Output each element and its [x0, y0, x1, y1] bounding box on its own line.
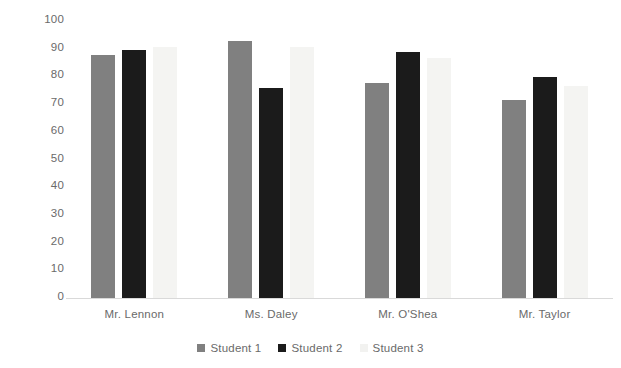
bar-group	[66, 22, 203, 299]
bar-student-3[interactable]	[290, 47, 314, 299]
bar-group	[340, 22, 477, 299]
bar-student-2[interactable]	[533, 77, 557, 299]
bar-student-1[interactable]	[365, 83, 389, 299]
legend-label: Student 2	[291, 342, 342, 354]
legend-label: Student 1	[210, 342, 261, 354]
bar-student-1[interactable]	[228, 41, 252, 299]
bar-group	[476, 22, 613, 299]
chart-legend: Student 1 Student 2 Student 3	[0, 342, 621, 354]
bar-student-1[interactable]	[502, 100, 526, 299]
y-axis-tick-10: 10	[18, 263, 64, 275]
x-axis-label: Mr. O'Shea	[340, 308, 477, 321]
x-axis-baseline	[66, 298, 613, 299]
bar-student-3[interactable]	[427, 58, 451, 299]
y-axis-tick-30: 30	[18, 208, 64, 220]
x-axis-labels: Mr. Lennon Ms. Daley Mr. O'Shea Mr. Tayl…	[66, 308, 613, 321]
x-axis-label: Ms. Daley	[203, 308, 340, 321]
legend-item-student-1[interactable]: Student 1	[197, 342, 261, 354]
y-axis-tick-60: 60	[18, 125, 64, 137]
bar-student-3[interactable]	[153, 47, 177, 299]
bar-chart: 100 90 80 70 60 50 40 30 20 10 0	[0, 0, 621, 368]
y-axis: 100 90 80 70 60 50 40 30 20 10 0	[18, 14, 64, 306]
y-axis-tick-70: 70	[18, 97, 64, 109]
y-axis-tick-50: 50	[18, 153, 64, 165]
plot-area	[66, 22, 613, 299]
legend-item-student-2[interactable]: Student 2	[278, 342, 342, 354]
y-axis-tick-0: 0	[18, 291, 64, 303]
bar-student-2[interactable]	[122, 50, 146, 299]
bar-group	[203, 22, 340, 299]
y-axis-tick-40: 40	[18, 180, 64, 192]
bar-student-3[interactable]	[564, 86, 588, 299]
legend-swatch-icon	[197, 344, 205, 352]
bar-student-2[interactable]	[259, 88, 283, 299]
x-axis-label: Mr. Lennon	[66, 308, 203, 321]
bar-student-1[interactable]	[91, 55, 115, 299]
y-axis-tick-20: 20	[18, 236, 64, 248]
bar-student-2[interactable]	[396, 52, 420, 299]
legend-swatch-icon	[360, 344, 368, 352]
y-axis-tick-80: 80	[18, 69, 64, 81]
y-axis-tick-90: 90	[18, 42, 64, 54]
y-axis-tick-100: 100	[18, 14, 64, 26]
legend-swatch-icon	[278, 344, 286, 352]
bar-groups	[66, 22, 613, 299]
legend-item-student-3[interactable]: Student 3	[360, 342, 424, 354]
legend-label: Student 3	[373, 342, 424, 354]
x-axis-label: Mr. Taylor	[476, 308, 613, 321]
